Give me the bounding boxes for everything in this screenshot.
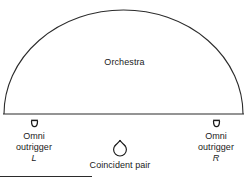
right-mic-label-line2: outrigger [180,142,249,153]
right-mic-channel-label: R [180,153,249,164]
left-mic-label-line2: outrigger [0,142,70,153]
left-mic-channel-label: L [0,153,70,164]
omni-microphone-icon [0,117,70,130]
right-mic-label-line1: Omni [180,131,249,142]
coincident-pair-group: Coincident pair [78,138,162,171]
orchestra-label: Orchestra [0,57,249,68]
omni-microphone-icon [180,117,249,130]
left-omni-outrigger-group: Omni outrigger L [0,117,70,165]
coincident-pair-microphone-icon [78,138,162,158]
figure-bottom-rule [0,176,92,177]
left-mic-label-line1: Omni [0,131,70,142]
orchestra-mic-placement-figure: Orchestra Omni outrigger L Coincident pa… [0,0,249,182]
right-omni-outrigger-group: Omni outrigger R [180,117,249,165]
center-mic-label-line1: Coincident pair [78,160,162,171]
